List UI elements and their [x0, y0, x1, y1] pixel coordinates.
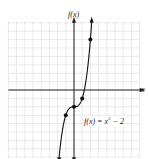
y-axis-arrow-down-icon	[72, 157, 76, 159]
y-axis-label: f(x)	[68, 11, 79, 19]
x-axis-label: x	[141, 86, 145, 94]
equation-suffix: − 2	[111, 117, 124, 126]
curve-arrow-up-icon	[90, 17, 94, 23]
data-point	[88, 38, 92, 42]
graph-plot	[0, 0, 149, 159]
data-point	[64, 113, 68, 117]
equation-prefix: f(x) = x	[84, 117, 108, 126]
data-point	[72, 105, 76, 109]
curve-arrow-down-icon	[57, 157, 61, 159]
equation-label: f(x) = x3 − 2	[83, 116, 125, 126]
data-point	[80, 96, 84, 100]
